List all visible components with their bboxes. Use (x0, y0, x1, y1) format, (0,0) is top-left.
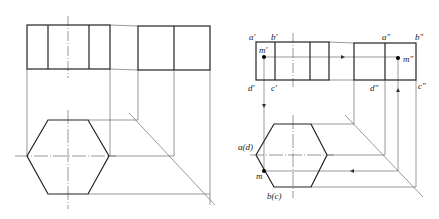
m-front-point (262, 55, 266, 59)
label-c-side: c″ (418, 82, 426, 91)
right-drawing (250, 33, 423, 198)
projection-diagram: a′ b′ m′ d′ c′ a″ b″ m″ d″ c″ a(d) m b(c… (0, 0, 439, 219)
label-b-side: b″ (415, 33, 423, 42)
label-ad-top: a(d) (238, 143, 253, 152)
label-d-side: d″ (370, 84, 378, 93)
label-c-front: c′ (271, 84, 277, 93)
drawing-canvas (0, 0, 439, 219)
label-a-front: a′ (249, 33, 255, 42)
right-outlines (256, 42, 416, 187)
label-bc-top: b(c) (267, 192, 282, 201)
m-side-point (396, 56, 400, 60)
left-outlines (27, 25, 210, 194)
label-d-front: d′ (248, 84, 254, 93)
label-m-top: m (256, 172, 263, 181)
label-m-front: m′ (259, 46, 267, 55)
right-top-view-hexagon (256, 124, 327, 187)
left-drawing (15, 16, 215, 209)
label-b-front: b′ (271, 33, 277, 42)
label-a-side: a″ (382, 33, 390, 42)
label-m-side: m″ (403, 55, 413, 64)
left-projection-lines (15, 16, 215, 209)
left-front-view (27, 25, 110, 69)
